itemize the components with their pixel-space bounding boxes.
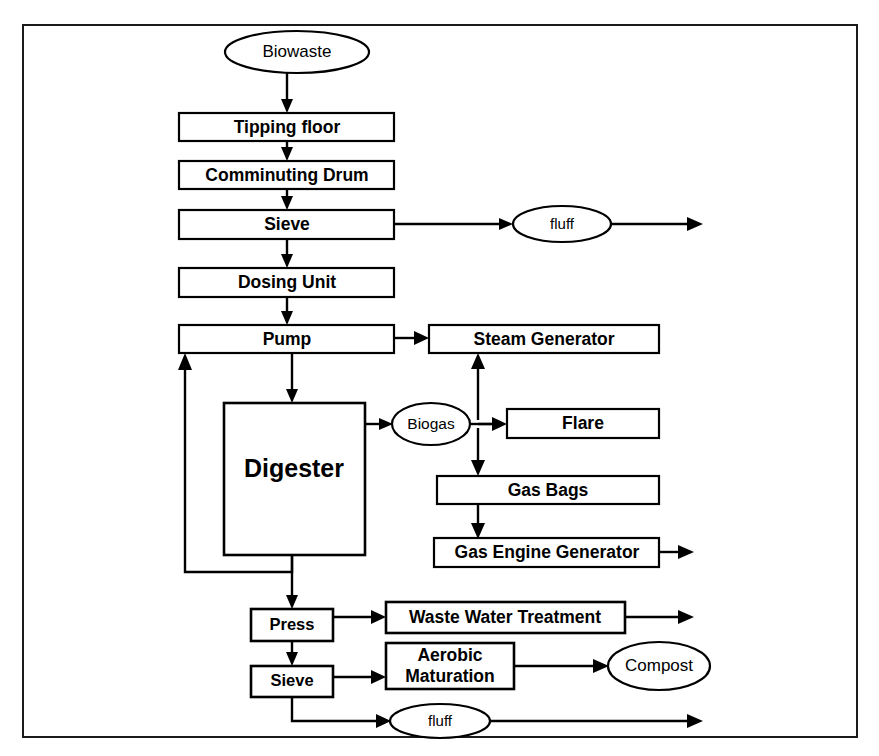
edge-press-to-sieve-bottom	[286, 641, 298, 666]
edge-press-to-waste-water-treatment	[333, 610, 386, 624]
tipping-floor-label: Tipping floor	[234, 117, 341, 137]
edge-digester-to-press	[286, 555, 298, 609]
process-flow-diagram: Biowaste Tipping floor Comminuting Drum …	[0, 0, 879, 756]
node-aerobic-maturation[interactable]: Aerobic Maturation	[386, 643, 514, 689]
digester-label: Digester	[244, 454, 344, 482]
node-fluff-bottom[interactable]: fluff	[390, 704, 490, 738]
pump-label: Pump	[263, 329, 312, 349]
sieve-top-label: Sieve	[264, 214, 310, 234]
flare-label: Flare	[562, 413, 604, 433]
aerobic-maturation-label-line2: Maturation	[405, 666, 494, 686]
edge-sieve-to-fluff-top	[395, 218, 513, 230]
aerobic-maturation-label-line1: Aerobic	[417, 645, 482, 665]
flow-diagram-canvas: Biowaste Tipping floor Comminuting Drum …	[0, 0, 879, 756]
node-tipping-floor[interactable]: Tipping floor	[179, 113, 394, 141]
node-steam-generator[interactable]: Steam Generator	[429, 325, 659, 353]
node-biogas[interactable]: Biogas	[392, 403, 470, 445]
edge-dosing-unit-to-pump	[281, 297, 293, 325]
node-biowaste[interactable]: Biowaste	[225, 31, 369, 73]
edge-sieve-bottom-to-aerobic-maturation	[333, 670, 386, 684]
press-label: Press	[270, 615, 315, 633]
edge-pump-to-digester	[286, 353, 298, 403]
edge-gas-bags-to-gas-engine-generator	[471, 503, 485, 539]
sieve-bottom-label: Sieve	[270, 671, 313, 689]
edge-waste-water-treatment-to-output	[625, 610, 694, 624]
node-waste-water-treatment[interactable]: Waste Water Treatment	[386, 602, 625, 633]
gas-bags-label: Gas Bags	[508, 480, 589, 500]
edge-sieve-to-dosing-unit	[281, 239, 293, 268]
compost-label: Compost	[625, 656, 693, 675]
node-digester[interactable]: Digester	[224, 403, 365, 555]
edge-aerobic-maturation-to-compost	[514, 659, 609, 673]
edge-pump-to-steam-generator	[395, 331, 429, 345]
edge-biogas-to-flare	[478, 417, 507, 431]
dosing-unit-label: Dosing Unit	[238, 272, 336, 292]
edge-digester-to-biogas	[365, 418, 393, 430]
node-press[interactable]: Press	[251, 609, 333, 641]
biogas-label: Biogas	[407, 415, 455, 432]
node-sieve-bottom[interactable]: Sieve	[251, 666, 333, 697]
node-fluff-top[interactable]: fluff	[513, 206, 611, 242]
node-dosing-unit[interactable]: Dosing Unit	[179, 268, 394, 297]
node-compost[interactable]: Compost	[608, 642, 710, 690]
edge-biogas-to-steam-generator	[471, 353, 485, 420]
edge-comminuting-drum-to-sieve	[281, 189, 293, 210]
steam-generator-label: Steam Generator	[473, 329, 614, 349]
node-gas-bags[interactable]: Gas Bags	[437, 476, 659, 504]
edge-fluff-top-to-output	[610, 217, 703, 231]
edge-sieve-bottom-to-fluff-bottom	[292, 697, 391, 728]
edge-fluff-bottom-to-output	[490, 714, 703, 728]
edge-biogas-to-gas-bags	[471, 428, 485, 476]
edge-gas-engine-generator-to-output	[659, 545, 694, 559]
edge-biowaste-to-tipping-floor	[281, 73, 293, 113]
waste-water-treatment-label: Waste Water Treatment	[409, 607, 601, 627]
node-pump[interactable]: Pump	[179, 325, 394, 353]
fluff-top-label: fluff	[550, 215, 575, 232]
node-gas-engine-generator[interactable]: Gas Engine Generator	[434, 538, 659, 567]
node-sieve-top[interactable]: Sieve	[179, 210, 394, 239]
gas-engine-generator-label: Gas Engine Generator	[455, 542, 640, 562]
biowaste-label: Biowaste	[263, 42, 332, 61]
fluff-bottom-label: fluff	[428, 712, 453, 729]
edge-tipping-floor-to-comminuting-drum	[281, 141, 293, 161]
comminuting-drum-label: Comminuting Drum	[205, 165, 368, 185]
node-flare[interactable]: Flare	[507, 409, 659, 438]
node-comminuting-drum[interactable]: Comminuting Drum	[179, 161, 394, 189]
